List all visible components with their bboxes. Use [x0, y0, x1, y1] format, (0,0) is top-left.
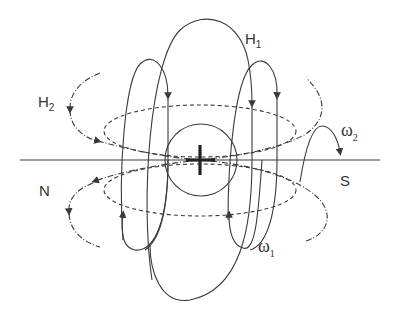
- s-curve-upper: [200, 78, 322, 160]
- label-omega2: ω2: [341, 120, 358, 143]
- n-curve-end: [69, 214, 100, 247]
- label-north: N: [39, 182, 50, 199]
- top-left-loop: [121, 59, 168, 240]
- s-curve-lower: [200, 160, 327, 241]
- omega2-arc: [300, 126, 340, 182]
- omega1-text: ω: [258, 236, 270, 256]
- h1-subscript: 1: [256, 39, 262, 50]
- omega2-subscript: 2: [353, 132, 358, 143]
- h2-curve: [70, 73, 100, 108]
- plus-sign: [186, 145, 215, 175]
- bottom-left-loop: [122, 160, 168, 250]
- label-omega1: ω1: [258, 236, 275, 259]
- field-diagram: H1 H2 ω2 ω1 N S: [0, 0, 396, 314]
- top-left-loop-down: [145, 98, 168, 250]
- label-h1: H1: [245, 30, 261, 50]
- h2-text: H: [38, 93, 49, 110]
- h2-curve-mid: [70, 110, 98, 141]
- omega2-text: ω: [341, 120, 353, 140]
- label-h2: H2: [38, 93, 54, 113]
- n-curve-mid: [69, 183, 93, 212]
- label-south: S: [340, 172, 350, 189]
- h2-subscript: 2: [49, 102, 55, 113]
- h1-text: H: [245, 30, 256, 47]
- diagram-svg: [0, 0, 396, 314]
- omega1-subscript: 1: [270, 248, 275, 259]
